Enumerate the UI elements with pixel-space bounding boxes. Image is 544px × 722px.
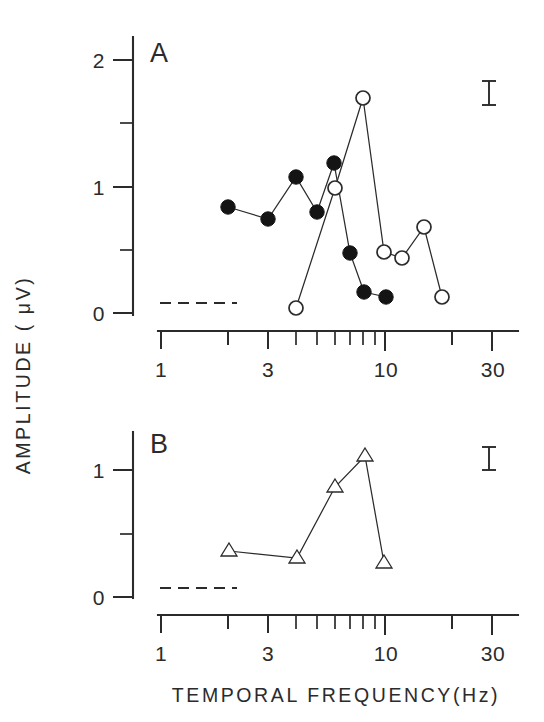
y-axis-title: AMPLITUDE ( μV) <box>12 276 34 475</box>
panel-a-ylabel-1: 1 <box>93 176 105 199</box>
panel-b-error-bar <box>482 447 496 470</box>
panel-b-series-triangle-line <box>229 456 384 563</box>
panel-a-x-ticks <box>161 331 492 351</box>
panel-a-series-open-line <box>296 98 442 308</box>
panel-b-x-ticks <box>161 615 492 635</box>
panel-a-ylabel-0: 0 <box>93 302 105 325</box>
panel-a-xlabel-30: 30 <box>481 358 505 381</box>
figure-canvas: 2 1 0 A 1 3 10 <box>0 0 544 722</box>
panel-a: 2 1 0 A 1 3 10 <box>93 37 518 381</box>
x-axis-title: TEMPORAL FREQUENCY(Hz) <box>172 684 500 706</box>
panel-a-xlabel-1: 1 <box>155 358 167 381</box>
panel-a-series-filled-line <box>228 163 386 297</box>
panel-a-ylabel-2: 2 <box>93 49 105 72</box>
panel-b-letter: B <box>150 429 169 459</box>
panel-b-xlabel-3: 3 <box>262 642 274 665</box>
panel-a-series-filled-markers <box>221 156 393 304</box>
panel-b: 1 0 B 1 3 10 30 <box>93 429 518 665</box>
panel-a-series-open-markers <box>289 91 449 315</box>
panel-b-xlabel-10: 10 <box>374 642 398 665</box>
panel-a-letter: A <box>150 38 169 68</box>
panel-b-ylabel-0: 0 <box>93 586 105 609</box>
panel-a-error-bar <box>482 81 496 105</box>
panel-b-xlabel-1: 1 <box>155 642 167 665</box>
figure-root: 2 1 0 A 1 3 10 <box>0 0 544 722</box>
panel-a-xlabel-3: 3 <box>262 358 274 381</box>
panel-a-xlabel-10: 10 <box>374 358 398 381</box>
panel-b-ylabel-1: 1 <box>93 459 105 482</box>
panel-b-xlabel-30: 30 <box>481 642 505 665</box>
